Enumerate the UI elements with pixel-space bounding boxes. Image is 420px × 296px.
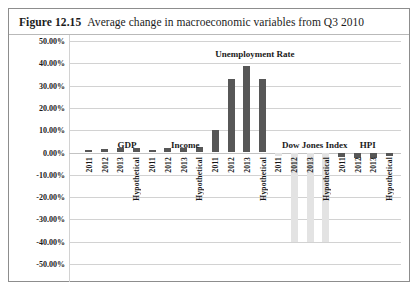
x-tick-label: 2013 xyxy=(369,157,378,173)
x-tick-label: 2011 xyxy=(148,157,157,172)
gridline-40 xyxy=(69,63,401,64)
y-tick-label: -20.00% xyxy=(13,193,65,202)
x-tick-label: 2013 xyxy=(306,157,315,173)
y-axis-tick-labels: 50.00%40.00%30.00%20.00%10.00%0.00%-10.0… xyxy=(13,35,65,282)
gridline-neg10 xyxy=(69,175,401,176)
figure-caption-bar: Figure 12.15 Average change in macroecon… xyxy=(9,9,409,35)
y-tick-label: 20.00% xyxy=(13,103,65,112)
x-tick-label: Hypothetical xyxy=(259,157,268,201)
gridline-neg20 xyxy=(69,197,401,198)
bar xyxy=(259,79,266,153)
group-label-income: Income xyxy=(171,140,200,150)
y-tick-label: -40.00% xyxy=(13,237,65,246)
x-tick-label: 2013 xyxy=(243,157,252,173)
x-tick-label: Hypothetical xyxy=(322,157,331,201)
y-tick-label: 10.00% xyxy=(13,126,65,135)
x-tick-label: Hypothetical xyxy=(195,157,204,201)
gridline-0 xyxy=(69,153,401,154)
figure-caption-text: Average change in macroeconomic variable… xyxy=(87,16,364,28)
group-label-dow-jones-index: Dow Jones Index xyxy=(282,140,348,150)
x-tick-label: 2012 xyxy=(290,157,299,173)
x-tick-label: Hypothetical xyxy=(385,157,394,201)
figure-container: Figure 12.15 Average change in macroecon… xyxy=(8,8,410,282)
bar xyxy=(85,150,92,152)
figure-number-label: Figure 12.15 xyxy=(19,16,81,28)
y-tick-label: 30.00% xyxy=(13,81,65,90)
bar xyxy=(212,130,219,152)
bar xyxy=(386,153,393,157)
x-tick-label: 2011 xyxy=(274,157,283,172)
x-tick-label: 2011 xyxy=(85,157,94,172)
gridline-50 xyxy=(69,41,401,42)
bar xyxy=(275,153,282,156)
x-tick-label: Hypothetical xyxy=(132,157,141,201)
y-axis-line xyxy=(69,35,70,282)
gridline-neg50 xyxy=(69,264,401,265)
y-tick-label: 50.00% xyxy=(13,37,65,46)
gridline-neg30 xyxy=(69,219,401,220)
gridline-10 xyxy=(69,130,401,131)
y-tick-label: -50.00% xyxy=(13,260,65,269)
bar xyxy=(243,66,250,153)
x-tick-label: 2012 xyxy=(227,157,236,173)
x-tick-label: 2012 xyxy=(164,157,173,173)
x-tick-label: 2012 xyxy=(354,157,363,173)
gridline-30 xyxy=(69,86,401,87)
y-tick-label: 40.00% xyxy=(13,59,65,68)
bar xyxy=(228,79,235,153)
chart-plot-wrapper: 50.00%40.00%30.00%20.00%10.00%0.00%-10.0… xyxy=(9,35,409,282)
y-tick-label: -10.00% xyxy=(13,170,65,179)
x-tick-label: 2012 xyxy=(101,157,110,173)
group-label-unemployment-rate: Unemployment Rate xyxy=(215,49,294,59)
y-tick-label: 0.00% xyxy=(13,148,65,157)
gridline-20 xyxy=(69,108,401,109)
bar xyxy=(149,150,156,153)
chart-plot-area: 201120122013Hypothetical201120122013Hypo… xyxy=(69,35,401,282)
y-tick-label: -30.00% xyxy=(13,215,65,224)
x-tick-label: 2013 xyxy=(116,157,125,173)
group-label-gdp: GDP xyxy=(118,140,137,150)
bar xyxy=(101,149,108,153)
x-tick-label: 2011 xyxy=(211,157,220,172)
x-tick-label: 2011 xyxy=(338,157,347,172)
gridline-neg40 xyxy=(69,242,401,243)
x-tick-label: 2013 xyxy=(180,157,189,173)
group-label-hpi: HPI xyxy=(360,140,376,150)
